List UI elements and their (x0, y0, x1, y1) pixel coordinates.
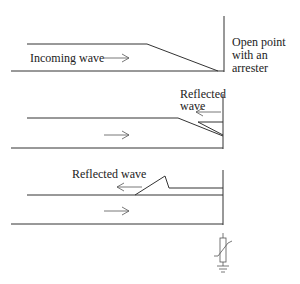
reflected-wavefront-3 (135, 176, 223, 195)
reflected-front-2 (198, 122, 223, 135)
right-arrow-icon (104, 207, 129, 215)
incoming-wave-label: Incoming wave (30, 51, 104, 65)
termination-label-line1: Open point (232, 35, 286, 49)
reflected-label-line2: wave (180, 99, 205, 113)
panel-reflection-travel: Reflected wave (11, 167, 223, 225)
reflected-wave-label: Reflected wave (72, 167, 146, 181)
panel-reflection-start: Reflected wave (11, 87, 226, 149)
surge-arrester-icon (214, 233, 232, 272)
termination-label-line3: arrester (232, 61, 268, 75)
wave-reflection-diagram: Incoming wave Open point with an arreste… (0, 0, 300, 284)
panel-incoming-wave: Incoming wave (11, 16, 224, 72)
wavefront-2 (27, 118, 223, 136)
right-arrow-icon (104, 54, 129, 62)
right-arrow-icon (104, 131, 129, 139)
termination-label-line2: with an (232, 48, 268, 62)
left-arrow-icon (117, 183, 142, 191)
